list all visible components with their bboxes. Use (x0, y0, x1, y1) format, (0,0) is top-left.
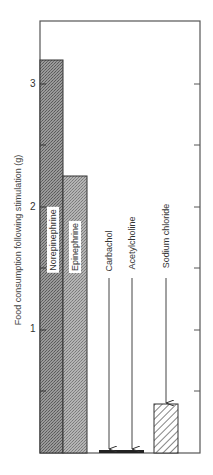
label-norepinephrine: Norepinephrine (47, 207, 59, 273)
label-acetylcholine: Acetylcholine (127, 216, 137, 269)
y-axis-label: Food consumption following stimulation (… (13, 155, 23, 326)
y-tick-label-2: 2 (30, 201, 36, 212)
y-tick-label-1: 1 (30, 323, 36, 334)
y-axis-right-ticks (194, 84, 200, 391)
bar-sodium-chloride (154, 404, 178, 453)
label-carbachol: Carbachol (104, 230, 114, 271)
bar-epinephrine (63, 176, 87, 453)
label-epinephrine: Epinephrine (69, 221, 81, 273)
label-sodium-chloride: Sodium chloride (161, 204, 171, 269)
y-tick-label-3: 3 (30, 78, 36, 89)
bar-carbachol-acetylcholine (99, 450, 144, 453)
